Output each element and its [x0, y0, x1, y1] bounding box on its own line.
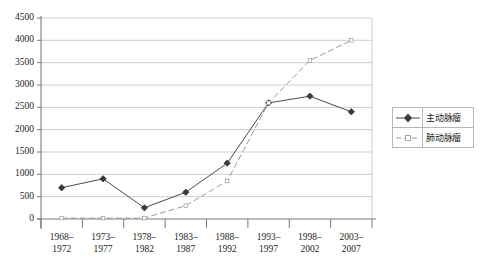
legend-label-0: 主动脉瘤: [423, 111, 473, 124]
x-axis-category-line: 2003–: [331, 231, 372, 243]
legend-item-0[interactable]: 主动脉瘤: [393, 108, 473, 128]
x-axis-category-label: 2003–2007: [331, 231, 372, 255]
diamond-line-key: [393, 108, 423, 127]
x-axis-category-line: 1978–: [124, 231, 165, 243]
line-chart: 050010001500200025003000350040004500 196…: [0, 0, 480, 271]
chart-legend: 主动脉瘤 肺动脉瘤: [392, 107, 474, 148]
y-axis-tick-label: 500: [0, 191, 34, 201]
y-axis-tick-label: 2000: [0, 124, 34, 134]
x-axis-category-line: 1998–: [289, 231, 330, 243]
x-axis-category-line: 1973–: [82, 231, 123, 243]
x-axis-category-label: 1998–2002: [289, 231, 330, 255]
x-axis-category-line: 1972: [41, 243, 82, 255]
legend-item-1[interactable]: 肺动脉瘤: [393, 128, 473, 148]
x-axis-category-line: 1988–: [207, 231, 248, 243]
y-axis-tick-label: 2500: [0, 101, 34, 111]
x-axis-category-label: 1988–1992: [207, 231, 248, 255]
y-axis-tick-label: 3500: [0, 57, 34, 67]
y-axis-tick-label: 3000: [0, 79, 34, 89]
x-axis-category-line: 2002: [289, 243, 330, 255]
y-axis-tick-label: 1000: [0, 168, 34, 178]
x-axis-category-line: 2007: [331, 243, 372, 255]
x-axis-category-line: 1997: [248, 243, 289, 255]
x-axis-category-label: 1983–1987: [165, 231, 206, 255]
x-axis-category-line: 1992: [207, 243, 248, 255]
x-axis-category-line: 1993–: [248, 231, 289, 243]
x-axis-category-line: 1982: [124, 243, 165, 255]
y-axis-tick-label: 0: [0, 213, 34, 223]
dashed-line-key: [393, 128, 423, 148]
x-axis-category-label: 1973–1977: [82, 231, 123, 255]
x-axis-category-label: 1993–1997: [248, 231, 289, 255]
x-axis-category-label: 1968–1972: [41, 231, 82, 255]
y-axis-tick-label: 4500: [0, 12, 34, 22]
y-axis-tick-label: 4000: [0, 34, 34, 44]
x-axis-category-line: 1987: [165, 243, 206, 255]
x-axis-category-label: 1978–1982: [124, 231, 165, 255]
x-axis-category-line: 1977: [82, 243, 123, 255]
y-axis-tick-label: 1500: [0, 146, 34, 156]
x-axis-category-line: 1968–: [41, 231, 82, 243]
x-axis-category-line: 1983–: [165, 231, 206, 243]
legend-label-1: 肺动脉瘤: [423, 131, 473, 144]
